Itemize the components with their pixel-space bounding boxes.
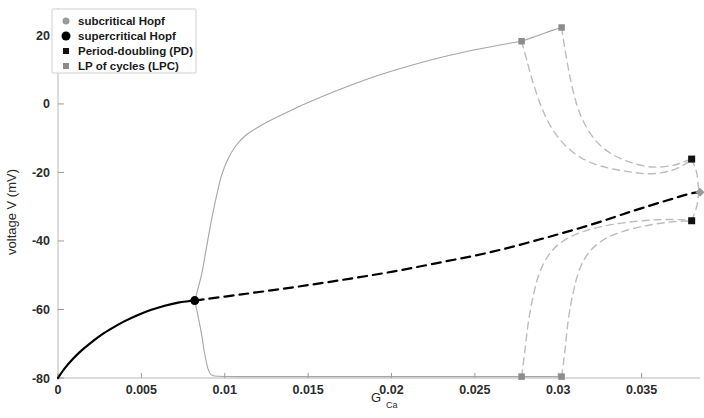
x-tick-label: 0.01 <box>213 383 237 397</box>
bifurcation-diagram: 00.0050.010.0150.020.0250.030.035 200-20… <box>0 0 704 418</box>
y-tick-label: -20 <box>32 166 50 180</box>
x-tick-label: 0.03 <box>546 383 570 397</box>
marker-lp_of_cycles <box>518 38 525 45</box>
legend-label-0: subcritical Hopf <box>78 15 165 27</box>
y-tick-label: -60 <box>32 303 50 317</box>
x-tick-label: 0.025 <box>459 383 490 397</box>
x-axis-title-subscript: Ca <box>386 400 398 410</box>
marker-lp_of_cycles <box>518 373 525 380</box>
x-tick-label: 0 <box>55 383 62 397</box>
y-tick-label: 0 <box>43 97 50 111</box>
legend-label-2: Period-doubling (PD) <box>78 45 193 57</box>
y-tick-label: -80 <box>32 372 50 386</box>
marker-lp_of_cycles <box>558 24 565 31</box>
legend-marker-1 <box>62 32 71 41</box>
x-tick-label: 0.005 <box>126 383 157 397</box>
legend-marker-2 <box>63 48 69 54</box>
marker-period_doubling <box>688 156 695 163</box>
x-axis-title-base: G <box>371 390 381 405</box>
marker-lp_of_cycles <box>558 373 565 380</box>
legend-marker-0 <box>63 18 70 25</box>
legend-label-3: LP of cycles (LPC) <box>78 60 179 72</box>
marker-period_doubling <box>688 217 695 224</box>
y-tick-label: -40 <box>32 234 50 248</box>
x-tick-label: 0.035 <box>626 383 657 397</box>
legend-label-1: supercritical Hopf <box>78 30 176 42</box>
y-tick-label: 20 <box>36 29 50 43</box>
y-axis-title: voltage V (mV) <box>4 169 19 255</box>
legend: subcritical Hopfsupercritical HopfPeriod… <box>52 9 196 73</box>
legend-marker-3 <box>63 63 69 69</box>
x-tick-label: 0.02 <box>379 383 403 397</box>
marker-supercritical_hopf <box>190 296 199 305</box>
x-tick-label: 0.015 <box>292 383 323 397</box>
